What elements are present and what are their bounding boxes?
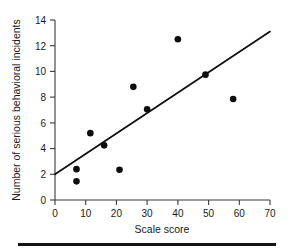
x-tick-label: 0 <box>52 208 58 219</box>
y-tick-label: 2 <box>40 169 46 180</box>
regression-trendline <box>55 32 270 175</box>
x-axis-title: Scale score <box>135 223 190 235</box>
x-tick-label: 40 <box>172 208 184 219</box>
data-point <box>130 84 137 91</box>
y-axis-title: Number of serious behavioral incidents <box>10 19 22 201</box>
y-tick-label: 6 <box>40 118 46 129</box>
x-tick-label: 10 <box>80 208 92 219</box>
x-tick-label: 60 <box>234 208 246 219</box>
y-axis-ticks <box>50 20 55 200</box>
data-point <box>101 142 108 149</box>
y-tick-label: 4 <box>40 143 46 154</box>
y-tick-label: 14 <box>35 15 47 26</box>
data-point-series <box>73 36 236 185</box>
x-tick-label: 30 <box>142 208 154 219</box>
x-tick-label: 50 <box>203 208 215 219</box>
data-point <box>230 96 237 103</box>
data-point <box>144 106 151 113</box>
y-tick-label: 0 <box>40 195 46 206</box>
y-tick-label: 8 <box>40 92 46 103</box>
data-point <box>73 166 80 173</box>
x-tick-label: 70 <box>264 208 276 219</box>
data-point <box>73 178 80 185</box>
chart-canvas: 0 2 4 6 8 10 12 14 0 10 20 30 40 5 <box>0 0 295 252</box>
scatter-plot-figure: 0 2 4 6 8 10 12 14 0 10 20 30 40 5 <box>0 0 295 252</box>
data-point <box>87 130 94 137</box>
y-tick-label: 10 <box>35 66 47 77</box>
y-axis-tick-labels: 0 2 4 6 8 10 12 14 <box>35 15 47 206</box>
footer-rule <box>18 243 276 246</box>
data-point <box>116 166 123 173</box>
data-point <box>202 71 209 78</box>
x-axis-tick-labels: 0 10 20 30 40 50 60 70 <box>52 208 276 219</box>
x-axis-ticks <box>55 200 270 205</box>
data-point <box>175 36 182 43</box>
y-tick-label: 12 <box>35 41 47 52</box>
x-tick-label: 20 <box>111 208 123 219</box>
